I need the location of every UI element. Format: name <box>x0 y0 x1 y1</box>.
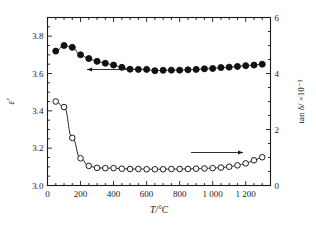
x-axis-title: T/°C <box>150 205 169 215</box>
x-tick-label: 800 <box>173 189 187 199</box>
data-point <box>226 64 232 70</box>
figure-container: 02004006008001 0001 200 3.03.23.43.63.8 … <box>0 0 316 228</box>
data-point <box>243 63 249 69</box>
data-point <box>177 166 183 172</box>
y-axis-left-title: ε' <box>6 98 16 105</box>
data-point <box>78 156 84 162</box>
data-point <box>78 52 84 58</box>
data-point <box>152 166 158 172</box>
data-point <box>61 43 67 49</box>
data-point <box>202 166 208 172</box>
chart-plot: 02004006008001 0001 200 3.03.23.43.63.8 … <box>0 0 316 228</box>
data-point <box>111 62 117 68</box>
data-point <box>201 66 207 72</box>
data-point <box>61 104 67 110</box>
data-point <box>53 48 59 54</box>
data-point <box>218 65 224 71</box>
data-point <box>251 158 257 164</box>
data-point <box>169 166 175 172</box>
data-point <box>86 163 92 169</box>
y-left-tick-label: 3.0 <box>32 181 44 191</box>
x-tick-label: 0 <box>45 189 50 199</box>
data-point <box>102 60 108 66</box>
data-point <box>53 99 59 105</box>
data-point <box>251 62 257 68</box>
data-point <box>69 135 75 141</box>
data-point <box>86 56 92 62</box>
y-right-tick-label: 2 <box>275 125 280 135</box>
y-left-tick-label: 3.6 <box>32 69 44 79</box>
y-left-tick-label: 3.8 <box>32 31 44 41</box>
data-point <box>243 161 249 167</box>
data-point <box>160 166 166 172</box>
data-point <box>218 165 224 171</box>
y-axis-right-title: tan δ/ ×10⁻³ <box>296 79 306 123</box>
x-tick-label: 400 <box>107 189 121 199</box>
data-point <box>235 163 241 169</box>
y-right-tick-label: 4 <box>275 69 280 79</box>
data-point <box>119 166 125 172</box>
x-tick-label: 200 <box>74 189 88 199</box>
data-point <box>210 165 216 171</box>
y-right-tick-label: 0 <box>275 181 280 191</box>
x-tick-label: 600 <box>140 189 154 199</box>
data-point <box>103 165 109 171</box>
data-point <box>185 67 191 73</box>
data-point <box>127 166 133 172</box>
data-point <box>210 65 216 71</box>
data-point <box>69 44 75 50</box>
x-tick-label: 1 000 <box>203 189 224 199</box>
data-point <box>144 66 150 72</box>
data-point <box>111 165 117 171</box>
data-point <box>259 61 265 67</box>
x-tick-label: 1 200 <box>236 189 257 199</box>
y-left-tick-label: 3.4 <box>32 106 44 116</box>
data-point <box>193 166 199 172</box>
y-left-tick-label: 3.2 <box>32 143 43 153</box>
data-point <box>193 66 199 72</box>
data-point <box>144 166 150 172</box>
data-point <box>152 68 158 74</box>
data-point <box>259 154 265 160</box>
data-point <box>177 67 183 73</box>
data-point <box>185 166 191 172</box>
data-point <box>226 164 232 170</box>
data-point <box>94 58 100 64</box>
y-right-tick-label: 6 <box>275 13 280 23</box>
data-point <box>94 165 100 171</box>
data-point <box>160 67 166 73</box>
data-point <box>168 67 174 73</box>
data-point <box>136 166 142 172</box>
data-point <box>234 63 240 69</box>
